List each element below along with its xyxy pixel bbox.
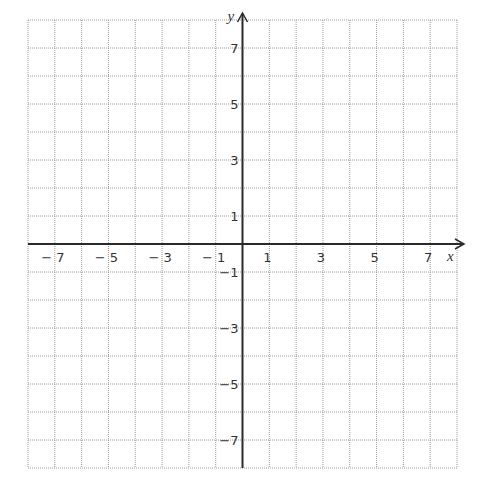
x-tick-label: 7: [424, 250, 432, 265]
x-tick-label: − 3: [148, 250, 171, 265]
tick-labels: xy− 7− 5− 3− 113577531−1−3−5−7: [41, 8, 454, 448]
x-tick-label: − 1: [202, 250, 225, 265]
y-tick-label: 3: [230, 153, 238, 168]
x-tick-label: − 5: [95, 250, 118, 265]
x-tick-label: 1: [263, 250, 271, 265]
axes: [28, 13, 464, 468]
y-tick-label: 5: [230, 97, 238, 112]
coordinate-plane: xy− 7− 5− 3− 113577531−1−3−5−7: [0, 0, 485, 493]
y-axis-label: y: [226, 8, 235, 24]
x-tick-label: − 7: [41, 250, 64, 265]
y-tick-label: −1: [219, 265, 238, 280]
y-tick-label: 1: [230, 209, 238, 224]
x-tick-label: 5: [370, 250, 378, 265]
y-tick-label: −3: [219, 321, 238, 336]
x-tick-label: 3: [317, 250, 325, 265]
y-tick-label: 7: [230, 41, 238, 56]
y-tick-label: −5: [219, 377, 238, 392]
x-axis-label: x: [446, 248, 454, 264]
y-tick-label: −7: [219, 433, 238, 448]
